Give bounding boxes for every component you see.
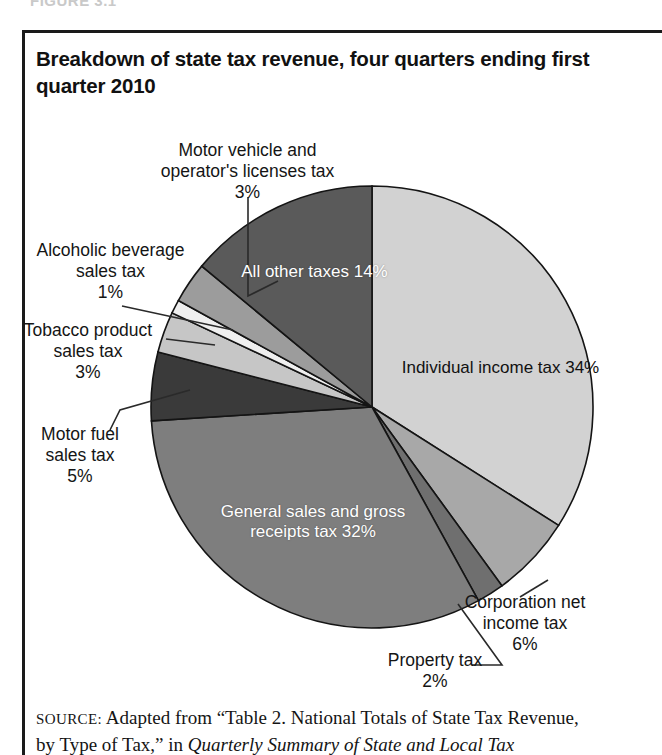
pie-chart: Motor vehicle and operator's licenses ta… (0, 0, 641, 700)
slice-label-general-sales: General sales and gross receipts tax 32% (198, 502, 428, 542)
slice-label-individual-income-tax: Individual income tax 34% (398, 358, 603, 378)
callout-motor-vehicle: Motor vehicle and operator's licenses ta… (140, 140, 355, 203)
callout-tobacco-product: Tobacco product sales tax 3% (8, 320, 168, 383)
callout-alcoholic-beverage: Alcoholic beverage sales tax 1% (8, 240, 213, 303)
callout-corporation-net-income: Corporation net income tax 6% (455, 592, 595, 655)
source-publication-title: Quarterly Summary of State and Local Tax (188, 734, 515, 755)
source-label: SOURCE: (36, 711, 102, 727)
source-line1: Adapted from “Table 2. National Totals o… (102, 707, 579, 728)
callout-property-tax: Property tax 2% (355, 650, 515, 692)
source-note: SOURCE: Adapted from “Table 2. National … (36, 705, 636, 755)
slice-label-all-other-taxes: All other taxes 14% (222, 262, 407, 282)
pie-slices (151, 186, 593, 628)
callout-motor-fuel: Motor fuel sales tax 5% (10, 424, 150, 487)
source-line2-lead: by Type of Tax,” in (36, 734, 188, 755)
